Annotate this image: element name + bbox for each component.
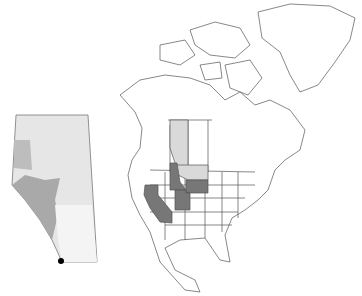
wyoming-region (186, 180, 208, 193)
utah-region (175, 190, 190, 210)
mainland (120, 75, 305, 292)
location-marker (58, 258, 64, 264)
alberta-inset (12, 115, 97, 264)
north-america-map (0, 0, 362, 296)
greenland (258, 4, 355, 92)
map-svg (0, 0, 362, 296)
arctic-islands (190, 22, 250, 58)
